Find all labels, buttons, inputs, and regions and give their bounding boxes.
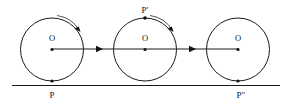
circle-2-center-label: O <box>142 33 148 43</box>
circle-2-center-dot <box>143 48 146 51</box>
circle-1-center-label: O <box>49 33 55 43</box>
circle-2-tracked-point-dot <box>143 16 147 20</box>
point-p-double-prime-label: P″ <box>237 90 246 100</box>
translation-arrow-2 <box>189 46 196 52</box>
point-p-prime-label: P′ <box>142 5 149 15</box>
circle-3-center-label: O <box>235 33 241 43</box>
rolling-circle-figure: O O O P P′ P″ <box>0 0 289 107</box>
circle-3-contact-point-dot <box>236 79 239 82</box>
circle-1-center-dot <box>50 48 53 51</box>
rolling-diagram-canvas: O O O P P′ P″ <box>0 0 289 107</box>
translation-arrow-1 <box>96 46 103 52</box>
point-p-label: P <box>49 90 54 100</box>
circle-1-contact-point-dot <box>50 79 53 82</box>
circle-3-center-dot <box>236 48 239 51</box>
